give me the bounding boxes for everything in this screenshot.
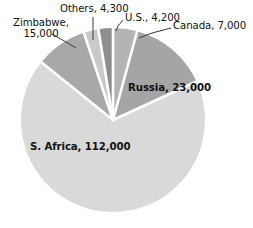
pie-label-russia: Russia, 23,000	[128, 82, 211, 93]
pie-label-safrica: S. Africa, 112,000	[30, 141, 131, 152]
leader-line-canada	[139, 28, 171, 38]
pie-label-zimbabwe: Zimbabwe, 15,000	[5, 17, 77, 40]
pie-label-canada: Canada, 7,000	[173, 20, 246, 31]
pie-chart: Zimbabwe, 15,000 Others, 4,300 U.S., 4,2…	[0, 0, 253, 228]
pie-label-zimbabwe-line1: Zimbabwe,	[5, 17, 77, 28]
pie-label-others: Others, 4,300	[60, 3, 129, 14]
pie-label-us: U.S., 4,200	[125, 12, 180, 23]
pie-label-zimbabwe-line2: 15,000	[5, 28, 77, 39]
